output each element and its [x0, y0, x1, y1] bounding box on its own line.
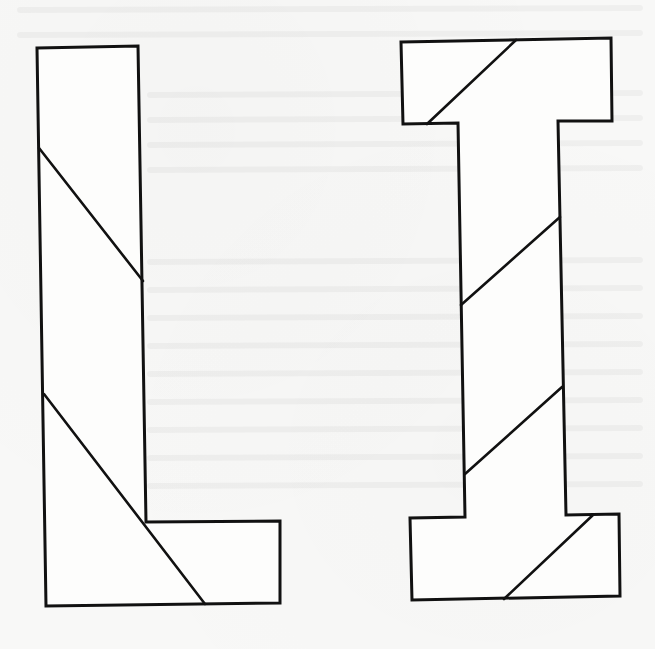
letter-L-outline [37, 46, 280, 606]
letter-L-shape [37, 46, 280, 606]
diagram-canvas [0, 0, 655, 649]
letter-I-shape [401, 38, 620, 600]
letter-I-outline [401, 38, 620, 600]
letter-puzzle-figure [0, 0, 655, 649]
